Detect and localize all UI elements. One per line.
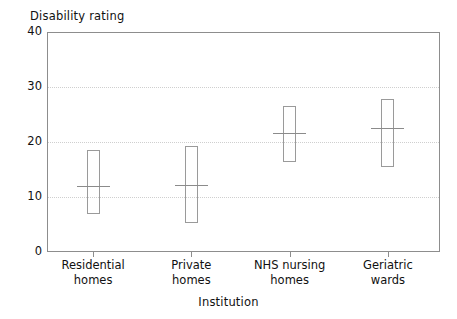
y-tick-label-40: 40 [4, 24, 42, 38]
x-tick-label-line: Geriatric [328, 258, 448, 273]
x-tick-mark-1 [191, 252, 192, 257]
gridline-y-30 [48, 87, 439, 88]
y-tick-label-0: 0 [4, 244, 42, 258]
x-tick-mark-2 [290, 252, 291, 257]
median-marker-1 [175, 185, 208, 186]
box-0 [87, 150, 100, 213]
y-axis-title: Disability rating [30, 9, 124, 23]
box-2 [283, 106, 296, 162]
y-tick-label-10: 10 [4, 189, 42, 203]
box-3 [381, 99, 394, 167]
x-tick-label-3: Geriatricwards [328, 258, 448, 287]
y-tick-label-30: 30 [4, 79, 42, 93]
x-tick-mark-0 [93, 252, 94, 257]
y-tick-label-20: 20 [4, 134, 42, 148]
median-marker-2 [273, 133, 306, 134]
median-marker-0 [77, 186, 110, 187]
gridline-y-20 [48, 142, 439, 143]
x-tick-label-line: wards [328, 273, 448, 288]
box-plot-chart: Disability rating 010203040 Residentialh… [0, 0, 457, 319]
gridline-y-10 [48, 197, 439, 198]
median-marker-3 [371, 128, 404, 129]
x-tick-mark-3 [388, 252, 389, 257]
x-axis-title: Institution [0, 295, 457, 309]
